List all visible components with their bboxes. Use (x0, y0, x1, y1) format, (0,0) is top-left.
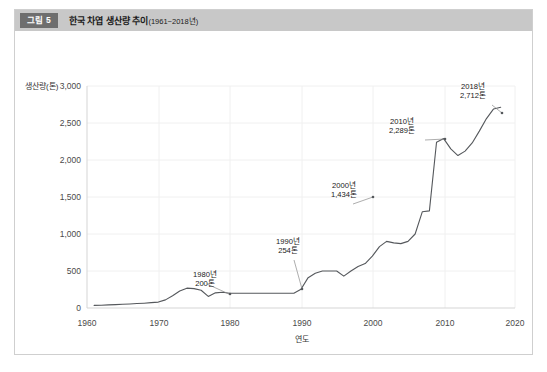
production-trend-line (94, 107, 501, 305)
annotation-markers (229, 112, 504, 296)
x-tick-1980: 1980 (221, 318, 240, 328)
line-chart-svg: 3,000 2,500 2,000 1,500 1,000 500 0 생산량(… (15, 31, 532, 355)
figure-title: 한국 차엽 생산량 추이(1961~2018년) (69, 14, 198, 27)
x-tick-1990: 1990 (293, 318, 312, 328)
annotation-1980-value: 200톤 (195, 279, 215, 288)
gridlines-horizontal (87, 86, 515, 271)
figure-container: 그림 5 한국 차엽 생산량 추이(1961~2018년) (14, 9, 533, 355)
annotation-2010: 2010년 2,289톤 (389, 116, 415, 135)
y-tick-3000: 3,000 (60, 81, 82, 91)
x-tick-1960: 1960 (78, 318, 97, 328)
y-tick-1000: 1,000 (60, 229, 82, 239)
x-axis-title: 연도 (295, 335, 309, 344)
annotation-2018-value: 2,712톤 (460, 91, 486, 100)
annotation-1980-year: 1980년 (193, 269, 217, 279)
annotation-leaders (207, 105, 502, 294)
annotation-2018: 2018년 2,712톤 (460, 81, 486, 100)
y-tick-2000: 2,000 (60, 155, 82, 165)
annotation-2000: 2000년 1,434톤 (331, 180, 357, 199)
annotation-1990: 1990년 254톤 (276, 236, 300, 255)
annotation-1980: 1980년 200톤 (193, 269, 217, 288)
figure-number-badge: 그림 5 (20, 13, 58, 28)
annotation-1990-year: 1990년 (276, 236, 300, 246)
figure-header: 그림 5 한국 차엽 생산량 추이(1961~2018년) (15, 10, 532, 31)
x-tick-2010: 2010 (436, 318, 455, 328)
annotation-2018-year: 2018년 (461, 81, 485, 91)
x-tick-2000: 2000 (364, 318, 383, 328)
figure-title-main: 한국 차엽 생산량 추이 (69, 16, 149, 26)
chart-plot-area: 3,000 2,500 2,000 1,500 1,000 500 0 생산량(… (15, 31, 532, 355)
annotation-2010-value: 2,289톤 (389, 126, 415, 135)
annotation-2000-value: 1,434톤 (331, 190, 357, 199)
y-tick-2500: 2,500 (60, 118, 82, 128)
x-tick-2020: 2020 (506, 318, 525, 328)
x-tick-1970: 1970 (150, 318, 169, 328)
y-tick-1500: 1,500 (60, 192, 82, 202)
y-tick-500: 500 (67, 266, 81, 276)
annotation-2000-year: 2000년 (332, 180, 356, 190)
figure-title-range: (1961~2018년) (148, 17, 198, 26)
y-axis-title: 생산량(톤) (25, 81, 59, 91)
annotation-2010-year: 2010년 (390, 116, 414, 126)
y-tick-0: 0 (76, 303, 81, 313)
annotation-1990-value: 254톤 (278, 246, 298, 255)
